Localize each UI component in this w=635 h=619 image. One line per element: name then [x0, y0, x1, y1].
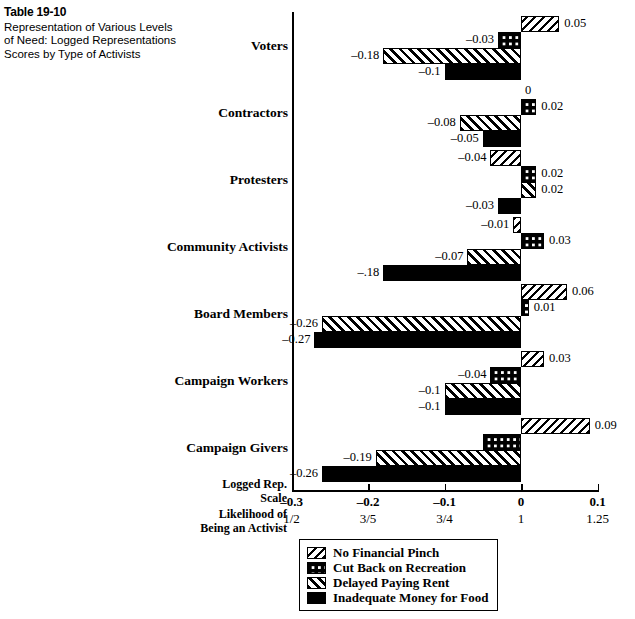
bar-value-label: –0.26 [290, 467, 318, 480]
x-axis-tick-label: 0.1 [589, 494, 605, 510]
bar-value-label: 0.06 [572, 285, 594, 298]
bar-segment [383, 48, 521, 64]
bar-segment [521, 284, 567, 300]
legend-swatch-icon [307, 562, 326, 574]
x-axis-title-primary: Logged Rep. Scale [222, 478, 287, 505]
x-axis-title-secondary: Likelihood of Being an Activist [200, 508, 287, 535]
x-axis-tick [292, 484, 294, 491]
x-axis-secondary-tick-label: 3/5 [360, 511, 377, 527]
bar-value-label: 0.01 [534, 301, 556, 314]
bar-segment [445, 64, 522, 80]
bar-value-label: –0.04 [458, 368, 486, 381]
legend-swatch-icon [307, 577, 326, 589]
bar-segment [521, 418, 590, 434]
bar-value-label: 0.03 [549, 234, 571, 247]
x-axis-title-line2: Scale [260, 491, 287, 505]
x-axis-tick [368, 484, 370, 491]
legend-label: Delayed Paying Rent [333, 576, 449, 590]
bar-value-label: 0 [525, 84, 531, 97]
legend-label: Inadequate Money for Food [333, 591, 488, 605]
bar-chart: 0.05–0.03–0.18–0.100.02–0.08–0.05–0.040.… [0, 0, 635, 500]
y-axis-line [292, 12, 294, 490]
bar-segment [498, 198, 521, 214]
bar-value-label: –0.01 [481, 218, 509, 231]
bar-segment [376, 450, 521, 466]
bar-value-label: –0.1 [419, 400, 441, 413]
bar-value-label: –0.04 [458, 151, 486, 164]
category-label: Community Activists [167, 240, 288, 254]
bar-segment [322, 466, 521, 482]
bar-value-label: –0.27 [282, 333, 310, 346]
legend-label: No Financial Pinch [333, 546, 439, 560]
legend-swatch-icon [307, 547, 326, 559]
bar-segment [521, 182, 536, 198]
x-axis-tick-label: 0 [518, 494, 525, 510]
x-axis-secondary-tick-label: 3/4 [436, 511, 453, 527]
x-axis-tick [598, 484, 600, 491]
bar-segment [445, 383, 522, 399]
category-label: Contractors [218, 106, 288, 120]
bar-value-label: –0.05 [451, 132, 479, 145]
bar-value-label: –0.1 [419, 65, 441, 78]
bar-segment [467, 249, 521, 265]
category-label: Voters [251, 39, 288, 53]
bar-value-label: 0.09 [595, 419, 617, 432]
x-axis-title-line3: Likelihood of [219, 507, 287, 521]
legend-swatch-icon [307, 592, 326, 604]
category-label: Campaign Workers [175, 374, 288, 388]
bar-segment [483, 434, 521, 450]
bar-segment [521, 166, 536, 182]
bar-segment [314, 332, 521, 348]
legend-item: Cut Back on Recreation [307, 560, 488, 575]
x-axis-tick [445, 484, 447, 491]
category-label: Protesters [230, 173, 288, 187]
bar-value-label: –0.07 [435, 250, 463, 263]
x-axis-secondary-tick-label: 1 [518, 511, 525, 527]
legend-label: Cut Back on Recreation [333, 561, 466, 575]
category-label: Board Members [194, 307, 288, 321]
bar-value-label: –0.08 [428, 116, 456, 129]
bar-segment [483, 131, 521, 147]
bar-segment [513, 217, 521, 233]
legend-item: Inadequate Money for Food [307, 590, 488, 605]
bar-value-label: –0.18 [351, 49, 379, 62]
legend-item: No Financial Pinch [307, 545, 488, 560]
bar-value-label: 0.02 [541, 167, 563, 180]
bar-value-label: 0.05 [564, 17, 586, 30]
bar-segment [521, 233, 544, 249]
chart-legend: No Financial PinchCut Back on Recreation… [299, 539, 498, 611]
bar-value-label: –0.26 [290, 317, 318, 330]
bar-value-label: 0.02 [541, 100, 563, 113]
bar-segment [521, 99, 536, 115]
x-axis-title-line1: Logged Rep. [222, 477, 287, 491]
x-axis-tick-label: –0.2 [357, 494, 380, 510]
bar-value-label: –0.03 [466, 33, 494, 46]
bar-segment [498, 32, 521, 48]
bar-value-label: –.18 [357, 266, 379, 279]
category-label: Campaign Givers [186, 441, 288, 455]
bar-segment [322, 316, 521, 332]
bar-segment [383, 265, 521, 281]
bar-segment [490, 150, 521, 166]
legend-item: Delayed Paying Rent [307, 575, 488, 590]
x-axis-tick [521, 484, 523, 491]
bar-segment [521, 300, 529, 316]
bar-value-label: –0.1 [419, 384, 441, 397]
bar-segment [521, 16, 559, 32]
bar-segment [490, 367, 521, 383]
x-axis-title-line4: Being an Activist [200, 521, 287, 535]
bar-value-label: –0.19 [344, 451, 372, 464]
bar-value-label: –0.03 [466, 199, 494, 212]
bar-value-label: 0.02 [541, 183, 563, 196]
bar-value-label: 0.03 [549, 352, 571, 365]
x-axis-tick-label: –0.1 [433, 494, 456, 510]
x-axis-secondary-tick-label: 1.25 [586, 511, 609, 527]
bar-segment [460, 115, 521, 131]
bar-segment [445, 399, 522, 415]
bar-segment [521, 351, 544, 367]
